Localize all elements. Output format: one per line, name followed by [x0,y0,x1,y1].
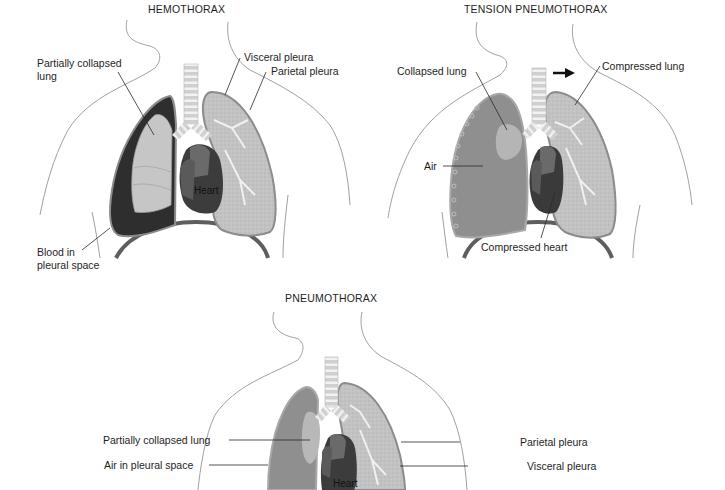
label-line-2: pleural space [37,259,99,271]
trachea [532,68,546,124]
pneumothorax-title: PNEUMOTHORAX [285,292,377,304]
label-compressed-lung: Compressed lung [602,60,684,73]
label-heart: Heart [194,185,218,196]
label-partially-collapsed-lung: Partially collapsed lung [37,57,122,82]
label-blood-in-pleural-space: Blood in pleural space [37,246,99,271]
label-visceral-pleura: Visceral pleura [244,51,313,64]
label-line-2: lung [37,70,57,82]
tension-pneumothorax-panel [388,22,692,258]
label-compressed-heart: Compressed heart [481,241,567,254]
label-line-1: Blood in [37,246,75,258]
pneumothorax-panel [198,312,467,490]
label-parietal-pleura: Parietal pleura [271,65,339,78]
hemothorax-title: HEMOTHORAX [148,3,225,15]
label-line-1: Partially collapsed [37,57,122,69]
trachea [325,357,338,407]
label-collapsed-lung: Collapsed lung [397,65,466,78]
tension-pneumothorax-title: TENSION PNEUMOTHORAX [464,3,607,15]
mediastinal-shift-arrow [553,68,575,78]
label-air: Air [424,160,437,173]
trachea [184,64,198,124]
label-air-in-pleural-space: Air in pleural space [104,459,193,472]
label-heart: Heart [333,478,357,489]
label-partially-collapsed-lung: Partially collapsed lung [103,434,210,447]
label-visceral-pleura: Visceral pleura [527,460,596,473]
label-parietal-pleura: Parietal pleura [520,436,588,449]
